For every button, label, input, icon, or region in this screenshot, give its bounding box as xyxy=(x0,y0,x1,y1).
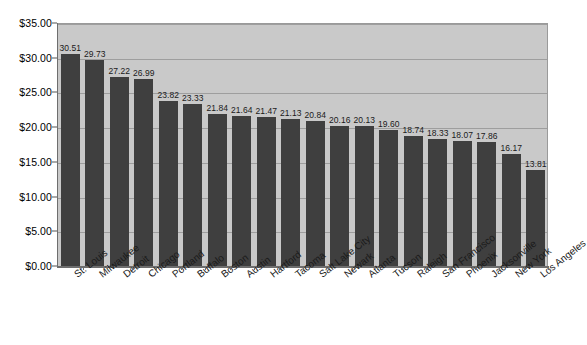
bar-slot: 18.33 xyxy=(426,24,451,266)
x-axis-tick-mark xyxy=(499,266,500,270)
plot-area: 30.5129.7327.2226.9923.8223.3321.8421.64… xyxy=(58,23,548,266)
y-axis-tick-mark xyxy=(52,161,57,162)
bar-value-label: 16.17 xyxy=(501,143,522,153)
x-axis-tick-mark xyxy=(426,266,427,270)
y-axis-tick-label: $10.00 xyxy=(19,191,52,203)
x-axis-tick-mark xyxy=(548,266,549,270)
bar-slot: 29.73 xyxy=(83,24,108,266)
x-axis-tick-mark xyxy=(254,266,255,270)
bar-slot: 16.17 xyxy=(499,24,524,266)
x-axis-category-labels: St. LouisMilwaukeeDetroitChicagoPortland… xyxy=(0,266,565,345)
y-axis-tick-label: $15.00 xyxy=(19,156,52,168)
x-axis-tick-mark xyxy=(352,266,353,270)
bar[interactable]: 20.16 xyxy=(330,126,349,266)
bar[interactable]: 21.47 xyxy=(257,117,276,266)
bar-value-label: 23.33 xyxy=(182,93,203,103)
y-axis-tick-label: $30.00 xyxy=(19,52,52,64)
y-axis-tick-label: $20.00 xyxy=(19,121,52,133)
bar-slot: 21.64 xyxy=(230,24,255,266)
bar[interactable]: 26.99 xyxy=(134,79,153,266)
bar-slot: 20.13 xyxy=(352,24,377,266)
bar-value-label: 18.33 xyxy=(427,128,448,138)
bar[interactable]: 27.22 xyxy=(110,77,129,266)
bar-slot: 21.47 xyxy=(254,24,279,266)
bar-value-label: 27.22 xyxy=(109,66,130,76)
bar-value-label: 13.81 xyxy=(525,159,546,169)
bar[interactable]: 21.84 xyxy=(208,114,227,266)
bar-value-label: 20.16 xyxy=(329,115,350,125)
bar-value-label: 30.51 xyxy=(60,43,81,53)
bar-slot: 23.33 xyxy=(181,24,206,266)
x-axis-tick-mark xyxy=(328,266,329,270)
bar[interactable]: 29.73 xyxy=(85,60,104,266)
y-axis: $0.00$5.00$10.00$15.00$20.00$25.00$30.00… xyxy=(0,23,52,266)
x-axis-tick-mark xyxy=(132,266,133,270)
x-axis-tick-mark xyxy=(156,266,157,270)
x-axis-tick-mark xyxy=(475,266,476,270)
bar[interactable]: 18.74 xyxy=(404,136,423,266)
bar[interactable]: 18.33 xyxy=(428,139,447,266)
bar-value-label: 20.84 xyxy=(305,110,326,120)
x-axis-tick-mark xyxy=(205,266,206,270)
bar-slot: 18.07 xyxy=(450,24,475,266)
y-axis-tick-mark xyxy=(52,231,57,232)
bar-value-label: 21.47 xyxy=(256,106,277,116)
y-axis-tick-label: $25.00 xyxy=(19,86,52,98)
x-axis-tick-mark xyxy=(377,266,378,270)
bar-slot: 26.99 xyxy=(132,24,157,266)
bar-value-label: 23.82 xyxy=(158,90,179,100)
bar[interactable]: 23.82 xyxy=(159,101,178,266)
y-axis-tick-mark xyxy=(52,196,57,197)
bar-slot: 21.84 xyxy=(205,24,230,266)
x-axis-tick-mark xyxy=(279,266,280,270)
bar-slot: 30.51 xyxy=(58,24,83,266)
bar-value-label: 21.13 xyxy=(280,108,301,118)
bar[interactable]: 21.64 xyxy=(232,116,251,266)
bar-value-label: 18.74 xyxy=(403,125,424,135)
bar-value-label: 18.07 xyxy=(452,130,473,140)
bar-slot: 20.16 xyxy=(328,24,353,266)
bar-slot: 13.81 xyxy=(524,24,549,266)
x-axis-tick-mark xyxy=(181,266,182,270)
bar-value-label: 21.84 xyxy=(207,103,228,113)
bar-slot: 17.86 xyxy=(475,24,500,266)
bar[interactable]: 23.33 xyxy=(183,104,202,266)
bar-series: 30.5129.7327.2226.9923.8223.3321.8421.64… xyxy=(58,24,547,266)
bar[interactable]: 30.51 xyxy=(61,54,80,266)
y-axis-tick-mark xyxy=(52,57,57,58)
y-axis-tick-mark xyxy=(52,266,57,267)
bar-value-label: 21.64 xyxy=(231,105,252,115)
x-axis-tick-mark xyxy=(524,266,525,270)
x-axis-tick-mark xyxy=(107,266,108,270)
y-axis-tick-label: $35.00 xyxy=(19,17,52,29)
x-axis-tick-mark xyxy=(401,266,402,270)
y-axis-tick-mark xyxy=(52,127,57,128)
bar-value-label: 19.60 xyxy=(378,119,399,129)
y-axis-tick-label: $5.00 xyxy=(25,225,52,237)
bar[interactable]: 19.60 xyxy=(379,130,398,266)
bar-value-label: 17.86 xyxy=(476,131,497,141)
bar[interactable]: 21.13 xyxy=(281,119,300,266)
bar-value-label: 26.99 xyxy=(133,68,154,78)
x-axis-tick-mark xyxy=(303,266,304,270)
y-axis-tick-mark xyxy=(52,23,57,24)
bar-slot: 19.60 xyxy=(377,24,402,266)
y-axis-tick-mark xyxy=(52,92,57,93)
x-axis-tick-mark xyxy=(230,266,231,270)
bar-value-label: 29.73 xyxy=(84,49,105,59)
bar-slot: 18.74 xyxy=(401,24,426,266)
bar-slot: 27.22 xyxy=(107,24,132,266)
bar-value-label: 20.13 xyxy=(354,115,375,125)
bar-slot: 23.82 xyxy=(156,24,181,266)
x-axis-tick-mark xyxy=(83,266,84,270)
bar-slot: 20.84 xyxy=(303,24,328,266)
bar-slot: 21.13 xyxy=(279,24,304,266)
bar[interactable]: 20.84 xyxy=(306,121,325,266)
x-axis-tick-mark xyxy=(450,266,451,270)
